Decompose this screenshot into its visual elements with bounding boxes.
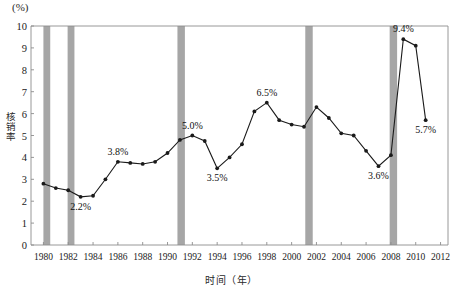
data-point xyxy=(352,134,356,138)
data-point xyxy=(252,110,256,114)
plot-frame xyxy=(31,26,448,245)
y-tick-9: 9 xyxy=(5,42,27,53)
data-point xyxy=(215,166,219,170)
data-point xyxy=(327,116,331,120)
data-point xyxy=(104,177,108,181)
axis-tick-marks xyxy=(31,26,441,245)
data-point xyxy=(401,37,405,41)
annotation-3-5pct: 3.5% xyxy=(207,172,228,183)
data-point xyxy=(141,162,145,166)
x-tick-1998: 1998 xyxy=(257,252,276,262)
data-point xyxy=(153,160,157,164)
y-tick-5: 5 xyxy=(5,130,27,141)
x-tick-1994: 1994 xyxy=(208,252,227,262)
data-point xyxy=(424,118,428,122)
data-point xyxy=(389,153,393,157)
data-point xyxy=(265,101,269,105)
x-tick-2002: 2002 xyxy=(307,252,326,262)
y-tick-7: 7 xyxy=(5,86,27,97)
data-point xyxy=(178,138,182,142)
y-tick-8: 8 xyxy=(5,64,27,75)
annotation-3-8pct: 3.8% xyxy=(107,146,128,157)
x-tick-1990: 1990 xyxy=(158,252,177,262)
data-point xyxy=(302,125,306,129)
x-tick-2012: 2012 xyxy=(431,252,450,262)
y-tick-1: 1 xyxy=(5,218,27,229)
data-point xyxy=(414,44,418,48)
data-point xyxy=(128,161,132,165)
x-tick-2008: 2008 xyxy=(381,252,400,262)
y-tick-0: 0 xyxy=(5,240,27,251)
y-tick-4: 4 xyxy=(5,152,27,163)
x-tick-2000: 2000 xyxy=(282,252,301,262)
data-point xyxy=(54,186,58,190)
annotation-5-0pct: 5.0% xyxy=(182,120,203,131)
data-point xyxy=(364,149,368,153)
shaded-recession-bands xyxy=(43,26,397,245)
data-point xyxy=(91,194,95,198)
y-tick-6: 6 xyxy=(5,108,27,119)
y-tick-3: 3 xyxy=(5,174,27,185)
y-axis-unit-label: (%) xyxy=(12,1,29,13)
y-tick-2: 2 xyxy=(5,196,27,207)
data-point xyxy=(277,118,281,122)
y-tick-10: 10 xyxy=(5,21,27,32)
x-tick-1992: 1992 xyxy=(183,252,202,262)
annotation-5-7pct: 5.7% xyxy=(415,124,436,135)
x-tick-1982: 1982 xyxy=(59,252,78,262)
data-point xyxy=(166,151,170,155)
annotation-3-6pct: 3.6% xyxy=(368,170,389,181)
data-point xyxy=(339,131,343,135)
data-point xyxy=(377,164,381,168)
data-point xyxy=(190,134,194,138)
x-tick-1986: 1986 xyxy=(108,252,127,262)
data-point xyxy=(240,142,244,146)
x-tick-1988: 1988 xyxy=(133,252,152,262)
data-point xyxy=(203,139,207,143)
data-point xyxy=(66,188,70,192)
data-point xyxy=(79,195,83,199)
annotation-9-4pct: 9.4% xyxy=(393,23,414,34)
annotation-6-5pct: 6.5% xyxy=(256,87,277,98)
x-tick-1984: 1984 xyxy=(84,252,103,262)
data-point xyxy=(42,182,46,186)
x-tick-2010: 2010 xyxy=(406,252,425,262)
data-point xyxy=(116,160,120,164)
x-tick-2006: 2006 xyxy=(357,252,376,262)
data-point xyxy=(290,123,294,127)
x-tick-2004: 2004 xyxy=(332,252,351,262)
x-axis-title: 时间（年） xyxy=(0,272,463,287)
recovery-rate-line-chart: (%) 核销率 012345678910 1980198219841986198… xyxy=(0,0,463,296)
data-point xyxy=(315,105,319,109)
x-tick-1996: 1996 xyxy=(232,252,251,262)
data-point xyxy=(228,156,232,160)
x-tick-1980: 1980 xyxy=(34,252,53,262)
annotation-2-2pct: 2.2% xyxy=(70,201,91,212)
